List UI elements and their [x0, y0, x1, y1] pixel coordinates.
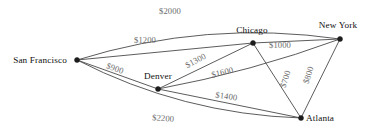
- edge-sf_chicago: [77, 43, 253, 60]
- edge-label-chicago_ny: $1000: [269, 40, 291, 50]
- node-label-san_francisco: San Francisco: [13, 55, 67, 65]
- edge-label-sf_atlanta: $2200: [152, 112, 175, 124]
- node-dot-new_york: [338, 37, 343, 42]
- edge-labels-group: $2000$1200$900$2200$1300$1600$1400$1000$…: [105, 6, 316, 124]
- edge-label-sf_ny: $2000: [159, 6, 181, 16]
- edges-group: [77, 33, 340, 118]
- node-dot-san_francisco: [75, 58, 80, 63]
- edge-chicago_atlanta: [253, 43, 301, 118]
- edge-label-sf_chicago: $1200: [134, 35, 156, 45]
- node-label-denver: Denver: [144, 71, 172, 81]
- node-dot-atlanta: [299, 116, 304, 121]
- edge-label-denver_ny: $1600: [210, 65, 234, 80]
- graph-canvas: $2000$1200$900$2200$1300$1600$1400$1000$…: [0, 0, 373, 133]
- edge-denver_chicago: [158, 43, 253, 89]
- edge-label-ny_atlanta: $800: [301, 65, 316, 85]
- edge-label-chicago_atlanta: $700: [278, 69, 293, 89]
- node-label-atlanta: Atlanta: [306, 113, 334, 123]
- route-cost-graph-figure: $2000$1200$900$2200$1300$1600$1400$1000$…: [0, 0, 373, 133]
- edge-chicago_ny: [253, 39, 340, 43]
- node-label-new_york: New York: [319, 20, 358, 30]
- node-dot-chicago: [251, 41, 256, 46]
- node-dot-denver: [156, 87, 161, 92]
- edge-label-denver_atlanta: $1400: [215, 90, 238, 103]
- node-label-chicago: Chicago: [236, 25, 268, 35]
